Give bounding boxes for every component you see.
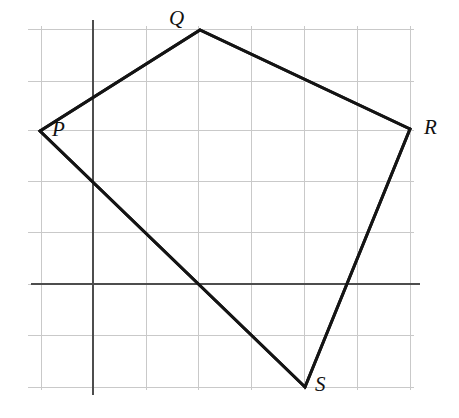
vertex-label-s: S	[315, 374, 326, 395]
vertex-label-r: R	[424, 117, 437, 138]
vertex-label-q: Q	[169, 8, 184, 29]
grid-layer	[28, 26, 414, 390]
vertex-label-p: P	[52, 119, 65, 140]
edge-qr	[200, 30, 410, 129]
edge-sp	[40, 131, 305, 387]
geometry-figure: PQRS	[0, 0, 459, 418]
quadrilateral-outline	[40, 30, 410, 387]
figure-canvas	[0, 0, 459, 418]
axes-layer	[31, 20, 420, 395]
quadrilateral-shape	[40, 30, 410, 387]
